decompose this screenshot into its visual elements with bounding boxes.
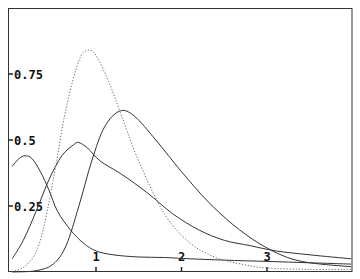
series-group xyxy=(12,50,351,272)
y-tick-label: 0.5 xyxy=(14,134,36,148)
y-tick-label: 0.75 xyxy=(14,68,43,82)
curve-d-dotted-line xyxy=(12,50,351,272)
curve-c-line xyxy=(12,110,351,272)
y-axis-ticks: 0.250.50.75 xyxy=(9,68,43,214)
line-chart: 0.250.50.75 123 xyxy=(0,0,360,279)
curve-b-line xyxy=(12,142,351,259)
x-tick-label: 2 xyxy=(178,250,185,264)
plot-frame xyxy=(9,9,353,272)
